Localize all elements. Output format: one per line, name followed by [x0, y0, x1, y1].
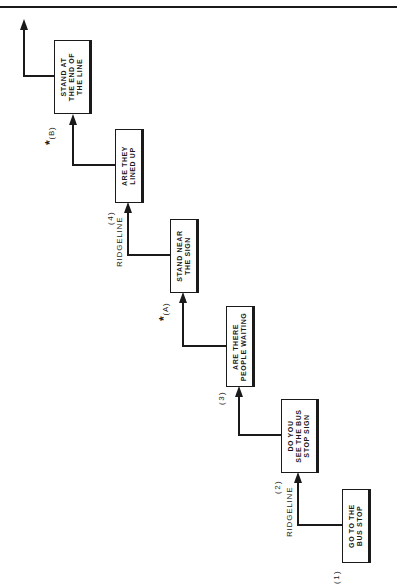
connector-v [238, 394, 240, 436]
asterisk-icon: * [43, 140, 57, 145]
step-label-1: (1) [332, 570, 341, 584]
step-label-4: (4) [106, 211, 115, 225]
box-see-bus-stop-sign: DO YOU SEE THE BUS STOP SIGN [281, 399, 319, 473]
arrow-up-icon [20, 19, 28, 30]
connector-h [72, 164, 116, 166]
annotation-a-label: (A) [161, 302, 170, 315]
connector-v [72, 122, 74, 166]
box-people-waiting: ARE THERE PEOPLE WAITING [226, 306, 255, 387]
connector-v [23, 28, 25, 77]
arrow-up-icon [294, 472, 302, 483]
box-lined-up: ARE THEY LINED UP [115, 129, 144, 203]
step-label-3: (3) [217, 391, 226, 405]
box-stand-at-end-of-line: STAND AT THE END OF THE LINE [54, 40, 92, 114]
box-label: ARE THEY LINED UP [121, 146, 137, 186]
connector-h [297, 524, 343, 526]
annotation-b: *(B) [43, 126, 57, 145]
connector-v [127, 210, 129, 256]
step-label-2: (2) [273, 480, 282, 494]
connector-h [182, 345, 227, 347]
arrow-up-icon [179, 292, 187, 303]
box-label: ARE THERE PEOPLE WAITING [232, 312, 248, 381]
box-label: DO YOU SEE THE BUS STOP SIGN [287, 409, 311, 462]
connector-v [297, 480, 299, 526]
top-border-line [0, 6, 397, 8]
connector-h [23, 75, 55, 77]
ridgeline-label: RIDGELINE [115, 217, 124, 267]
box-label: STAND AT THE END OF THE LINE [60, 53, 84, 101]
connector-h [127, 254, 171, 256]
annotation-a: *(A) [157, 302, 171, 321]
box-stand-near-sign: STAND NEAR THE SIGN [170, 219, 199, 293]
connector-v [182, 300, 184, 347]
box-label: GO TO THE BUS STOP [348, 504, 364, 548]
arrow-up-icon [69, 114, 77, 125]
arrow-up-icon [124, 202, 132, 213]
asterisk-icon: * [157, 316, 171, 321]
box-go-to-bus-stop: GO TO THE BUS STOP [342, 489, 371, 563]
ridgeline-label: RIDGELINE [285, 487, 294, 537]
connector-h [238, 434, 282, 436]
box-label: STAND NEAR THE SIGN [176, 230, 192, 281]
annotation-b-label: (B) [47, 126, 56, 139]
arrow-up-icon [235, 386, 243, 397]
